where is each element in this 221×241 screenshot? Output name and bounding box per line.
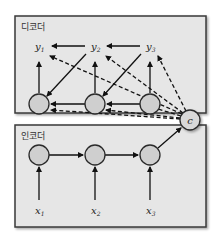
context-label: c: [187, 115, 193, 126]
encoder-node-3: [140, 145, 160, 165]
decoder-node-1: [29, 94, 49, 114]
decoder-node-2: [85, 94, 105, 114]
encoder-node-1: [29, 145, 49, 165]
encoder-node-2: [85, 145, 105, 165]
context-node: c: [180, 110, 200, 130]
seq2seq-diagram: 디코더 인코더 y1 y2 y3: [0, 0, 221, 241]
decoder-label: 디코더: [21, 22, 45, 32]
encoder-label: 인코더: [21, 131, 45, 141]
decoder-node-3: [140, 94, 160, 114]
